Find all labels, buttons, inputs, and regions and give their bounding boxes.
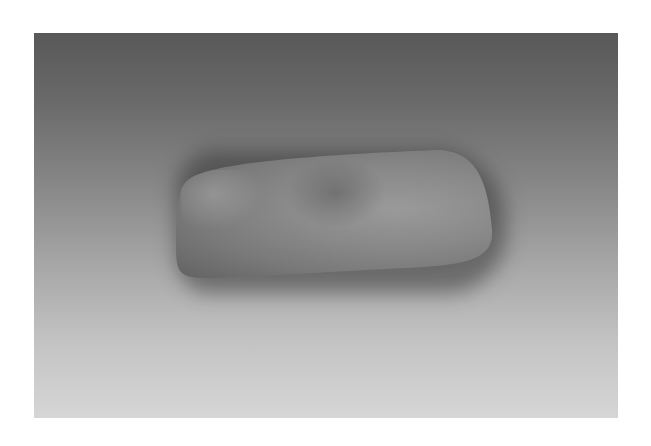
- stone-axe-head: [176, 150, 492, 280]
- photograph: [34, 33, 618, 418]
